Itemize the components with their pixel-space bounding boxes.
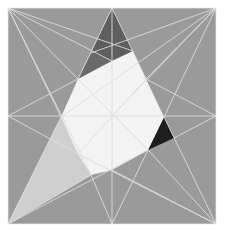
geometric-figure <box>0 0 225 230</box>
